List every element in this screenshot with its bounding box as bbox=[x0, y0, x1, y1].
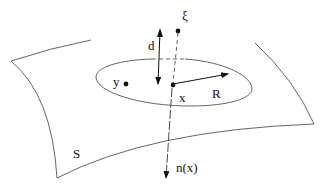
xi-to-x-dashed-line bbox=[173, 33, 178, 84]
d-arrow-top-head-icon bbox=[157, 28, 163, 37]
label-d: d bbox=[148, 38, 155, 53]
label-r: R bbox=[212, 86, 221, 101]
surface-right-edge bbox=[255, 43, 314, 124]
r-arrow bbox=[173, 74, 228, 84]
surface-diagram: ξ d y x R S n(x) bbox=[0, 0, 324, 187]
surface-top-left-edge bbox=[11, 40, 91, 61]
label-y: y bbox=[113, 74, 120, 89]
surface-s bbox=[11, 40, 314, 178]
point-xi bbox=[176, 29, 181, 34]
surface-left-edge bbox=[11, 61, 57, 178]
point-x bbox=[171, 83, 176, 88]
label-x: x bbox=[179, 90, 186, 105]
d-arrow bbox=[158, 31, 160, 84]
point-y bbox=[124, 82, 129, 87]
label-normal: n(x) bbox=[176, 160, 198, 175]
label-xi: ξ bbox=[182, 8, 188, 23]
label-s: S bbox=[73, 146, 80, 161]
normal-line bbox=[166, 88, 172, 178]
